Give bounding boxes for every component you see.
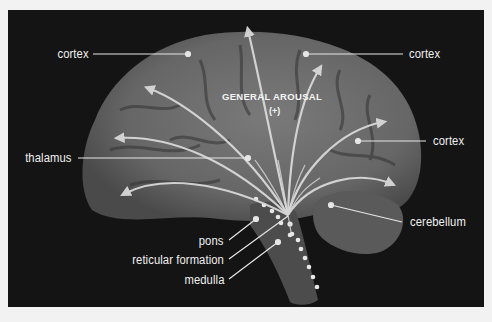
label-thalamus: thalamus [26,151,72,165]
label-cortex-top-right: cortex [409,47,440,61]
label-reticular-formation: reticular formation [132,253,224,267]
label-pons: pons [199,234,224,248]
cerebellum-shape [313,191,403,254]
brainstem-shape [250,202,318,305]
label-cortex-top-left: cortex [58,47,89,61]
general-arousal-title: GENERAL AROUSAL [222,91,322,102]
label-medulla: medulla [184,273,224,287]
label-cerebellum: cerebellum [410,215,466,229]
arousal-sign: (+) [269,106,280,116]
label-cortex-right: cortex [433,134,464,148]
